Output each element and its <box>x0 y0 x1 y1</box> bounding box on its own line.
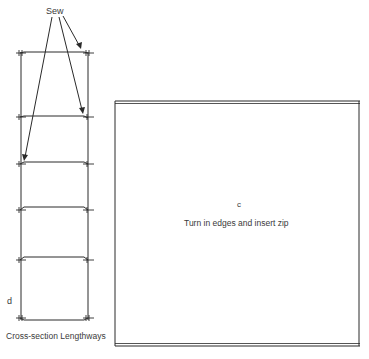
sew-label: Sew <box>46 6 64 16</box>
sew-arrows <box>25 16 82 157</box>
arrow-heads <box>22 42 85 161</box>
label-c: c <box>237 200 241 209</box>
cross-section-caption: Cross-section Lengthways <box>6 331 106 341</box>
instruction-text: Turn in edges and insert zip <box>184 218 289 228</box>
diagram-canvas <box>0 0 369 359</box>
label-d: d <box>7 296 12 306</box>
